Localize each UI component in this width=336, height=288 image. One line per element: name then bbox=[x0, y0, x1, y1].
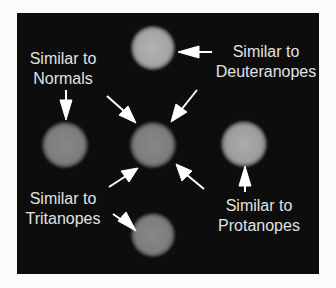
arrow-to-center-lower-left-icon bbox=[109, 168, 138, 187]
label-deuteranopes-line2: Deuteranopes bbox=[214, 62, 318, 82]
circle-left-normals bbox=[42, 122, 88, 168]
arrow-down-right-icon bbox=[113, 212, 136, 231]
label-deuteranopes: Similar to Deuteranopes bbox=[214, 42, 318, 82]
arrow-left-icon bbox=[178, 46, 212, 58]
circle-top-deuteranopes bbox=[131, 26, 175, 70]
arrow-to-center-upper-left-icon bbox=[107, 96, 136, 123]
circle-right-protanopes bbox=[221, 121, 267, 167]
arrow-to-center-lower-right-icon bbox=[176, 164, 204, 189]
label-protanopes-line1: Similar to bbox=[210, 196, 308, 216]
label-deuteranopes-line1: Similar to bbox=[214, 42, 318, 62]
circle-bottom-tritanopes bbox=[131, 213, 175, 257]
arrow-to-center-upper-right-icon bbox=[171, 90, 197, 122]
label-normals: Similar to Normals bbox=[22, 49, 104, 89]
figure: Similar to Normals Similar to Deuteranop… bbox=[0, 0, 336, 288]
label-normals-line2: Normals bbox=[22, 69, 104, 89]
label-protanopes-line2: Protanopes bbox=[210, 216, 308, 236]
arrow-up-icon bbox=[239, 166, 251, 192]
label-protanopes: Similar to Protanopes bbox=[210, 196, 308, 236]
label-tritanopes: Similar to Tritanopes bbox=[20, 189, 106, 229]
label-normals-line1: Similar to bbox=[22, 49, 104, 69]
circle-center-reference bbox=[130, 122, 176, 168]
arrow-down-icon bbox=[60, 90, 72, 120]
label-tritanopes-line1: Similar to bbox=[20, 189, 106, 209]
label-tritanopes-line2: Tritanopes bbox=[20, 209, 106, 229]
